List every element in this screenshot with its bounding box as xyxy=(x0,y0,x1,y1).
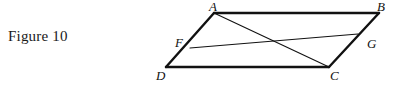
figure-container: Figure 10 A B C D F G xyxy=(0,0,393,90)
vertex-label-g: G xyxy=(367,37,376,50)
inner-segments-group xyxy=(190,13,358,67)
vertex-label-f: F xyxy=(175,36,183,49)
segment-AC xyxy=(214,13,329,67)
vertex-label-c: C xyxy=(330,69,339,82)
vertex-label-b: B xyxy=(377,0,385,13)
edge-DA xyxy=(166,13,214,67)
vertex-label-d: D xyxy=(156,69,165,82)
vertex-label-a: A xyxy=(209,0,217,13)
segment-FG xyxy=(190,34,358,48)
